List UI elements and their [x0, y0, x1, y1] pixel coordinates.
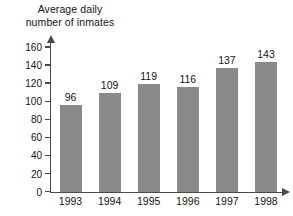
x-axis-line: [50, 192, 283, 193]
y-axis-tick-label: 40: [0, 150, 42, 161]
bar: [177, 87, 199, 192]
y-axis-tick-mark: [45, 101, 50, 102]
y-axis-tick-mark: [45, 64, 50, 65]
y-axis-tick-label: 140: [0, 59, 42, 70]
x-axis-arrow-icon: [282, 188, 290, 196]
x-axis-category-label: 1996: [176, 195, 199, 207]
bar: [99, 93, 121, 192]
y-axis-tick-mark: [45, 173, 50, 174]
bar: [60, 105, 82, 192]
x-axis-category-label: 1997: [215, 195, 238, 207]
y-axis-tick-label: 0: [0, 186, 42, 197]
y-axis-tick-label: 120: [0, 78, 42, 89]
x-axis-category-label: 1993: [59, 195, 82, 207]
bar: [138, 84, 160, 192]
x-axis-category-label: 1995: [137, 195, 160, 207]
y-axis-line: [50, 42, 51, 193]
y-axis-tick-mark: [45, 82, 50, 83]
bar: [255, 62, 277, 191]
bar-value-label: 119: [140, 70, 157, 82]
bar-value-label: 116: [179, 73, 196, 85]
x-axis-category-label: 1994: [98, 195, 121, 207]
bar-chart: Average daily number of inmates 02040608…: [0, 0, 293, 216]
bar-value-label: 96: [65, 91, 77, 103]
plot-area: 020406080100120140160 961993109199411919…: [0, 0, 293, 216]
bar-value-label: 109: [101, 79, 119, 91]
y-axis-tick-mark: [45, 191, 50, 192]
y-axis-tick-label: 100: [0, 96, 42, 107]
y-axis-tick-label: 160: [0, 41, 42, 52]
y-axis-tick-label: 60: [0, 132, 42, 143]
y-axis-arrow-icon: [47, 35, 55, 43]
y-axis-tick-mark: [45, 46, 50, 47]
x-axis-category-label: 1998: [254, 195, 277, 207]
y-axis-tick-label: 80: [0, 114, 42, 125]
bar-value-label: 137: [218, 54, 236, 66]
y-axis-tick-mark: [45, 155, 50, 156]
bar-value-label: 143: [257, 48, 275, 60]
y-axis-tick-label: 20: [0, 168, 42, 179]
y-axis-tick-mark: [45, 137, 50, 138]
bar: [216, 68, 238, 192]
y-axis-tick-mark: [45, 119, 50, 120]
